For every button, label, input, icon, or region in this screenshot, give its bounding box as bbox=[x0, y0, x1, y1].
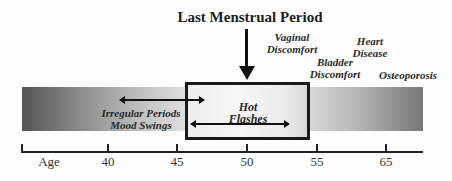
tick-label-50: 50 bbox=[232, 154, 262, 170]
heart-line1: Heart bbox=[345, 35, 395, 47]
diagram-title: Last Menstrual Period bbox=[150, 9, 350, 26]
hot-flashes-range-line bbox=[193, 123, 285, 125]
tick-65 bbox=[385, 144, 387, 152]
tick-55 bbox=[316, 144, 318, 152]
arrow-right-icon bbox=[284, 120, 290, 128]
tick-45 bbox=[176, 144, 178, 152]
vaginal-discomfort-label: Vaginal Discomfort bbox=[262, 31, 322, 55]
irregular-periods-range-line bbox=[122, 99, 200, 101]
tick-label-45: 45 bbox=[162, 154, 192, 170]
irregular-periods-text: Irregular Periods bbox=[96, 107, 186, 119]
hot-flashes-label: Hot Flashes bbox=[228, 101, 268, 125]
bladder-line2: Discomfort bbox=[305, 68, 365, 80]
arrow-left-icon bbox=[119, 96, 125, 104]
lmp-arrow-down-icon bbox=[239, 66, 255, 80]
tick-label-65: 65 bbox=[371, 154, 401, 170]
osteoporosis-label: Osteoporosis bbox=[372, 69, 444, 81]
age-axis-line bbox=[21, 151, 423, 153]
axis-label: Age bbox=[32, 154, 66, 170]
tick-40 bbox=[107, 144, 109, 152]
vaginal-line2: Discomfort bbox=[262, 43, 322, 55]
tick-50 bbox=[246, 144, 248, 152]
tick-label-40: 40 bbox=[93, 154, 123, 170]
mood-swings-text: Mood Swings bbox=[96, 119, 186, 131]
tick-label-55: 55 bbox=[302, 154, 332, 170]
arrow-left-icon bbox=[190, 120, 196, 128]
axis-start-tick bbox=[21, 144, 23, 152]
arrow-right-icon bbox=[199, 96, 205, 104]
menopause-timeline-diagram: Last Menstrual Period Vaginal Discomfort… bbox=[0, 0, 452, 181]
lmp-arrow-shaft bbox=[245, 29, 248, 69]
bladder-line1: Bladder bbox=[305, 56, 365, 68]
vaginal-line1: Vaginal bbox=[262, 31, 322, 43]
irregular-mood-label: Irregular Periods Mood Swings bbox=[96, 107, 186, 131]
bladder-discomfort-label: Bladder Discomfort bbox=[305, 56, 365, 80]
